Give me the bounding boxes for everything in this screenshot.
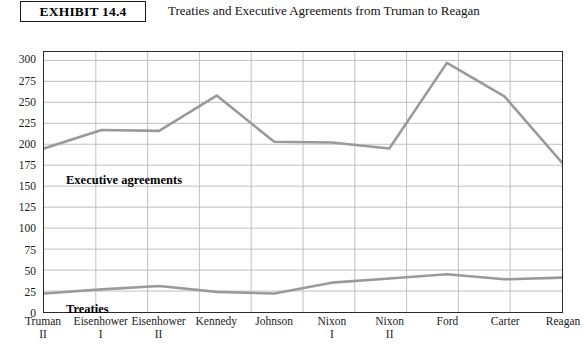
y-axis-tick-label: 25 (25, 286, 37, 298)
y-axis-tick-label: 175 (19, 159, 36, 171)
series-label-executive-agreements: Executive agreements (66, 173, 182, 188)
chart-container: 0255075100125150175200225250275300 Execu… (0, 28, 570, 351)
exhibit-number-label: EXHIBIT 14.4 (40, 4, 127, 20)
y-axis-tick-label: 50 (25, 265, 37, 277)
y-axis-tick-label: 150 (19, 180, 36, 192)
exhibit-number-box: EXHIBIT 14.4 (20, 1, 146, 22)
x-axis-tick-sublabel: II (119, 328, 199, 341)
y-axis: 0255075100125150175200225250275300 (0, 51, 40, 313)
y-axis-tick-label: 200 (19, 138, 36, 150)
x-axis-tick-label: Reagan (523, 315, 585, 328)
x-axis-tick-group: Reagan (523, 315, 585, 328)
y-axis-tick-label: 75 (25, 244, 37, 256)
x-axis-tick-sublabel: II (350, 328, 430, 341)
y-axis-tick-label: 100 (19, 222, 36, 234)
x-axis: TrumanIIEisenhowerIEisenhowerIIKennedyJo… (43, 315, 563, 351)
y-axis-tick-label: 300 (19, 53, 36, 65)
y-axis-tick-label: 275 (19, 75, 36, 87)
y-axis-tick-label: 125 (19, 201, 36, 213)
y-axis-tick-label: 225 (19, 117, 36, 129)
y-axis-tick-label: 250 (19, 96, 36, 108)
exhibit-title: Treaties and Executive Agreements from T… (168, 3, 480, 19)
exhibit-header: EXHIBIT 14.4 Treaties and Executive Agre… (0, 0, 570, 28)
